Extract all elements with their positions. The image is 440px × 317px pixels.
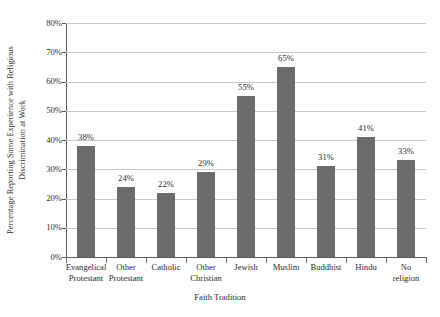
x-axis-title: Faith Tradition: [0, 292, 440, 302]
bar-value-label: 24%: [106, 174, 146, 183]
y-axis-tick-mark: [62, 228, 66, 229]
bar: [197, 172, 215, 257]
x-axis-tick-mark: [226, 258, 227, 263]
y-axis-tick-label: 50%: [34, 106, 62, 115]
y-axis-tick-label: 0%: [34, 253, 62, 262]
bar-value-label: 22%: [146, 180, 186, 189]
y-axis-tick-label: 40%: [34, 136, 62, 145]
gridline: [66, 23, 426, 24]
bar-value-label: 38%: [66, 133, 106, 142]
bar: [277, 67, 295, 257]
bar: [77, 146, 95, 257]
y-axis-tick-mark: [62, 169, 66, 170]
y-axis-tick-label: 30%: [34, 165, 62, 174]
x-axis-tick-mark: [66, 258, 67, 263]
x-axis-tick-mark: [426, 258, 427, 263]
x-axis-tick-label-line: No: [375, 262, 437, 273]
x-axis-tick-mark: [266, 258, 267, 263]
y-axis-title-line-2: Discrimination at Work: [17, 46, 29, 234]
x-axis-tick-label-line: religion: [375, 273, 437, 284]
x-axis-tick-mark: [386, 258, 387, 263]
gridline: [66, 52, 426, 53]
x-axis-tick-mark: [306, 258, 307, 263]
y-axis-tick-label: 20%: [34, 194, 62, 203]
x-axis-tick-label-line: Protestant: [95, 273, 157, 284]
y-axis-tick-label: 70%: [34, 48, 62, 57]
x-axis-tick-label: Noreligion: [375, 262, 437, 283]
plot-area: [66, 23, 426, 257]
y-axis-tick-mark: [62, 111, 66, 112]
bar-value-label: 41%: [346, 124, 386, 133]
y-axis-tick-label: 80%: [34, 19, 62, 28]
x-axis-tick-mark: [346, 258, 347, 263]
bar-value-label: 31%: [306, 153, 346, 162]
bar: [317, 166, 335, 257]
bar-value-label: 65%: [266, 54, 306, 63]
x-axis-tick-mark: [146, 258, 147, 263]
y-axis-tick-mark: [62, 23, 66, 24]
bar: [157, 193, 175, 257]
bar-value-label: 29%: [186, 159, 226, 168]
bar: [357, 137, 375, 257]
y-axis-tick-mark: [62, 52, 66, 53]
bar: [237, 96, 255, 257]
bar-value-label: 55%: [226, 83, 266, 92]
bar-chart-figure: Percentage Reporting Some Experience wit…: [0, 0, 440, 317]
x-axis-tick-mark: [186, 258, 187, 263]
y-axis-tick-mark: [62, 199, 66, 200]
bar-value-label: 33%: [386, 147, 426, 156]
y-axis-title: Percentage Reporting Some Experience wit…: [0, 23, 34, 257]
x-axis-tick-mark: [106, 258, 107, 263]
x-axis-line: [66, 257, 427, 258]
y-axis-tick-label: 60%: [34, 77, 62, 86]
y-axis-title-line-1: Percentage Reporting Some Experience wit…: [6, 46, 15, 234]
x-axis-tick-label-line: Christian: [175, 273, 237, 284]
y-axis-tick-mark: [62, 82, 66, 83]
bar: [397, 160, 415, 257]
y-axis-tick-label: 10%: [34, 223, 62, 232]
bar: [117, 187, 135, 257]
